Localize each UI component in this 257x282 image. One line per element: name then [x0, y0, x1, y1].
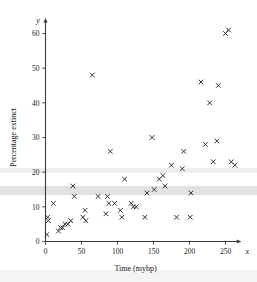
data-markers-group	[45, 28, 238, 237]
chart-page: 0501001502002500102030405060 Time (mybp)…	[0, 0, 257, 282]
data-point-marker	[174, 215, 179, 220]
data-point-marker	[83, 208, 88, 213]
data-point-marker	[108, 149, 113, 154]
data-point-marker	[134, 205, 139, 210]
data-point-marker	[215, 139, 220, 144]
data-point-marker	[169, 163, 174, 168]
data-point-marker	[90, 73, 95, 78]
data-point-marker	[163, 184, 168, 189]
y-tick-label: 10	[32, 203, 40, 212]
x-tick-label: 100	[112, 247, 124, 256]
data-point-marker	[152, 187, 157, 192]
x-axis-symbol: x	[245, 247, 250, 256]
data-point-marker	[207, 101, 212, 106]
data-point-marker	[51, 201, 56, 206]
data-point-marker	[122, 177, 127, 182]
x-tick-label: 50	[78, 247, 86, 256]
data-point-marker	[84, 218, 89, 223]
data-point-marker	[46, 218, 51, 223]
data-point-marker	[68, 218, 73, 223]
data-point-marker	[143, 215, 148, 220]
data-point-marker	[71, 184, 76, 189]
y-tick-label: 20	[32, 168, 40, 177]
y-axis-title: Percentage extinct	[9, 107, 18, 167]
data-point-marker	[211, 159, 216, 164]
data-point-marker	[161, 173, 166, 178]
data-point-marker	[199, 80, 204, 85]
x-tick-label: 200	[184, 247, 196, 256]
data-point-marker	[188, 215, 193, 220]
data-point-marker	[120, 215, 125, 220]
data-point-marker	[180, 166, 185, 171]
x-tick-label: 250	[220, 247, 232, 256]
tick-labels-group: 0501001502002500102030405060	[32, 29, 231, 255]
x-axis-title: Time (mybp)	[114, 264, 156, 273]
ticks-group	[42, 34, 225, 245]
y-tick-label: 50	[32, 64, 40, 73]
data-point-marker	[112, 201, 117, 206]
data-point-marker	[181, 149, 186, 154]
x-tick-label: 150	[148, 247, 160, 256]
axes-group	[43, 18, 241, 244]
x-axis-arrowhead	[237, 239, 242, 243]
data-point-marker	[118, 208, 123, 213]
data-point-marker	[96, 194, 101, 199]
y-tick-label: 60	[32, 29, 40, 38]
data-point-marker	[104, 211, 109, 216]
data-point-marker	[189, 191, 194, 196]
data-point-marker	[226, 28, 231, 33]
data-point-marker	[145, 191, 150, 196]
data-point-marker	[233, 163, 238, 168]
y-tick-label: 40	[32, 99, 40, 108]
y-tick-label: 0	[36, 237, 40, 246]
data-point-marker	[107, 201, 112, 206]
scatter-plot: 0501001502002500102030405060 Time (mybp)…	[0, 0, 257, 282]
data-point-marker	[72, 194, 77, 199]
y-tick-label: 30	[32, 133, 40, 142]
y-axis-symbol: y	[35, 16, 40, 25]
data-point-marker	[216, 83, 221, 88]
x-tick-label: 0	[44, 247, 48, 256]
data-point-marker	[150, 135, 155, 140]
data-point-marker	[203, 142, 208, 147]
data-point-marker	[105, 194, 110, 199]
y-axis-arrowhead	[43, 18, 47, 23]
